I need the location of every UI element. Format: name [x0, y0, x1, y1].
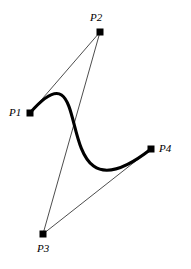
control-point-label-p3: P3	[37, 243, 49, 254]
bezier-figure: P1 P2 P3 P4	[0, 0, 191, 269]
bezier-canvas	[0, 0, 191, 269]
control-point-label-p1: P1	[9, 107, 21, 118]
control-point-label-p4: P4	[159, 143, 171, 154]
bezier-curve-path	[30, 93, 151, 170]
control-point-marker-p3[interactable]	[40, 231, 47, 238]
control-point-marker-p2[interactable]	[97, 29, 104, 36]
control-point-label-p2: P2	[90, 12, 102, 23]
control-point-marker-p4[interactable]	[148, 146, 155, 153]
control-point-marker-p1[interactable]	[27, 110, 34, 117]
control-polygon-path	[30, 32, 151, 234]
